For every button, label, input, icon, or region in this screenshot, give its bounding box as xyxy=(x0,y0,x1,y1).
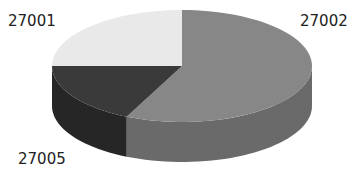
label-27002: 27002 xyxy=(300,14,348,29)
pie-chart: 27001 27002 27005 xyxy=(0,0,360,182)
label-27001: 27001 xyxy=(8,14,56,29)
slice-27001 xyxy=(52,10,182,66)
label-27005: 27005 xyxy=(18,152,66,167)
